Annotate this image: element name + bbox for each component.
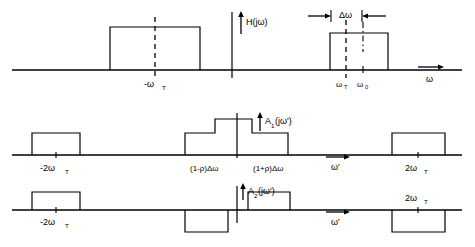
h-curve-label: H(jω) — [246, 17, 268, 27]
filter-response-panel: H(jω) Δω -ω T ω T — [12, 10, 462, 91]
panel-h-axis-arrow-head — [438, 64, 444, 69]
alias-spectrum-a2-panel: A 2 (jω') -2ω T 2ω T ω' — [12, 183, 462, 232]
delta-omega-left-arrow-head — [325, 13, 331, 18]
a1-minus-2-omega-t-label: -2ω T — [40, 163, 69, 174]
svg-text:(jω'): (jω') — [275, 116, 292, 126]
a2-minus-2-omega-t-label: -2ω T — [40, 217, 69, 228]
svg-text:2ω: 2ω — [405, 193, 417, 203]
right-passband-pulse — [330, 33, 388, 70]
a1-label-arrow-head — [257, 112, 263, 118]
svg-text:T: T — [162, 84, 166, 91]
h-label-arrow-head — [238, 11, 244, 17]
a2-label-arrow-head — [240, 183, 246, 189]
panel-h-axis-label: ω — [426, 74, 433, 84]
spectral-figure: H(jω) Δω -ω T ω T — [0, 0, 475, 247]
svg-text:2ω: 2ω — [405, 163, 417, 173]
svg-text:T: T — [424, 168, 428, 175]
a1-right-replica-pulse — [392, 133, 445, 155]
a2-center-left-negative-lobe — [185, 210, 228, 232]
svg-text:0: 0 — [365, 84, 368, 90]
svg-text:T: T — [424, 198, 428, 205]
svg-text:-2ω: -2ω — [40, 163, 55, 173]
svg-text:(jω'): (jω') — [258, 186, 275, 196]
a1-left-replica-pulse — [32, 133, 80, 155]
svg-text:T: T — [65, 222, 69, 229]
svg-text:T: T — [344, 84, 348, 90]
figure-canvas: H(jω) Δω -ω T ω T — [0, 0, 475, 247]
a2-right-replica-pulse — [392, 210, 445, 232]
svg-text:ω: ω — [357, 80, 363, 89]
a2-2-omega-t-label: 2ω T — [405, 193, 428, 204]
omega-0-label: ω 0 — [357, 80, 368, 90]
delta-omega-label: Δω — [339, 10, 352, 20]
a1-step-left-label: (1-ρ)Δω — [190, 164, 219, 173]
svg-text:ω: ω — [336, 80, 342, 89]
panel-a2-axis-label: ω' — [331, 217, 340, 227]
a1-step-right-label: (1+ρ)Δω — [253, 164, 284, 173]
alias-spectrum-a1-panel: A 1 (jω') -2ω T 2ω T (1-ρ)Δω (1+ρ)Δω ω' — [12, 112, 462, 175]
svg-text:-ω: -ω — [144, 79, 154, 89]
a1-curve-label: A 1 (jω') — [265, 116, 292, 128]
a1-2-omega-t-label: 2ω T — [405, 163, 428, 174]
panel-a1-axis-label: ω' — [331, 162, 340, 172]
omega-t-label: ω T — [336, 80, 348, 90]
svg-text:-2ω: -2ω — [40, 217, 55, 227]
svg-text:T: T — [65, 168, 69, 175]
minus-omega-t-label: -ω T — [144, 79, 166, 90]
